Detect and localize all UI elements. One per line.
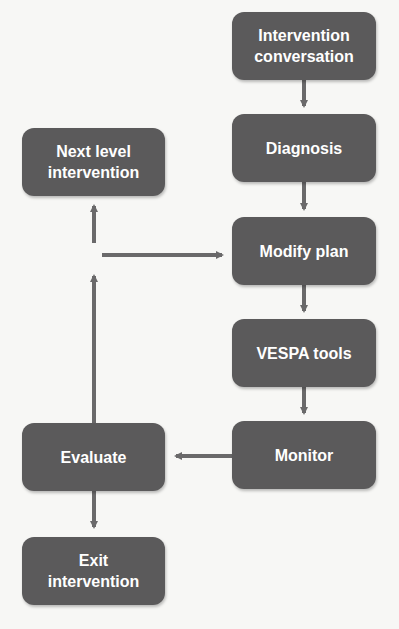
node-label-line1: Next level (48, 141, 140, 162)
node-label: Evaluate (61, 447, 127, 468)
node-label-line2: intervention (48, 571, 140, 592)
node-vespa-tools: VESPA tools (232, 319, 376, 387)
node-intervention-conversation: Interventionconversation (232, 12, 376, 80)
node-label-line1: Intervention (254, 25, 354, 46)
node-label: Monitor (275, 445, 334, 466)
node-label-line2: conversation (254, 46, 354, 67)
node-monitor: Monitor (232, 421, 376, 489)
node-exit-intervention: Exitintervention (22, 537, 165, 605)
connector-arrows (0, 0, 399, 629)
node-label-line1: Exit (48, 550, 140, 571)
node-evaluate: Evaluate (22, 423, 165, 491)
node-label: Modify plan (260, 241, 349, 262)
node-label: VESPA tools (256, 343, 351, 364)
node-modify-plan: Modify plan (232, 217, 376, 285)
node-label: Diagnosis (266, 138, 342, 159)
node-label-line2: intervention (48, 162, 140, 183)
node-next-level-intervention: Next levelintervention (22, 128, 165, 196)
node-diagnosis: Diagnosis (232, 114, 376, 182)
